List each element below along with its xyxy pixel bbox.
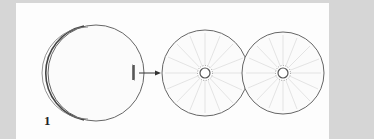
daughter-cell-right: [242, 32, 324, 114]
diagram-svg: [0, 0, 374, 139]
nucleus: [278, 68, 288, 78]
daughter-cell-left: [162, 30, 248, 116]
panel-label: 1: [44, 113, 51, 129]
single-cell: [42, 25, 144, 121]
nucleus: [200, 68, 210, 78]
